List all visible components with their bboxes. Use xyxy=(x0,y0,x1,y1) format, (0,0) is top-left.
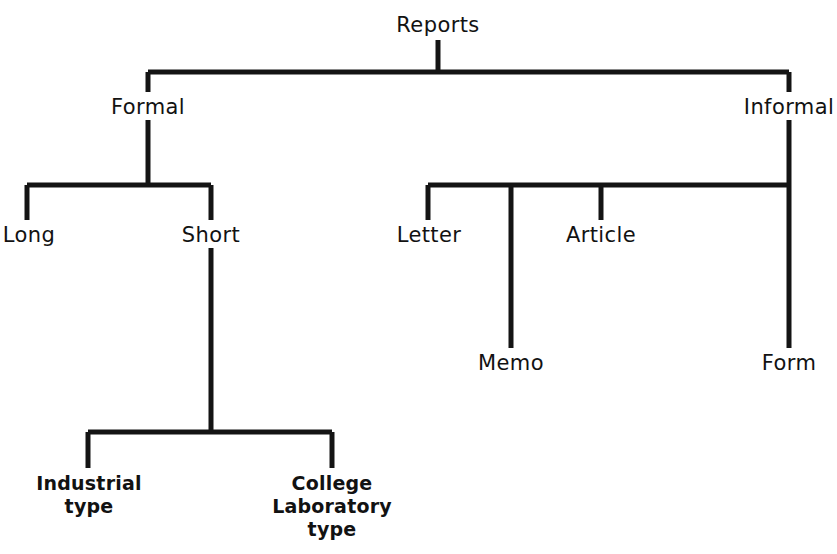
tree-node-informal: Informal xyxy=(741,96,837,118)
tree-node-long: Long xyxy=(0,224,58,246)
tree-node-reports: Reports xyxy=(393,14,482,36)
tree-node-short: Short xyxy=(179,224,243,246)
tree-node-form: Form xyxy=(759,352,820,374)
tree-node-memo: Memo xyxy=(475,352,547,374)
tree-node-college: College Laboratory type xyxy=(269,472,395,541)
tree-node-letter: Letter xyxy=(394,224,465,246)
tree-node-article: Article xyxy=(563,224,639,246)
tree-node-formal: Formal xyxy=(108,96,188,118)
tree-node-industrial: Industrial type xyxy=(33,472,144,518)
